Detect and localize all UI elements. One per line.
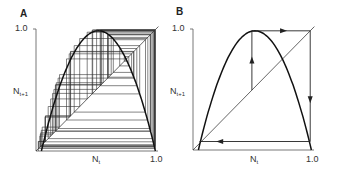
map-curve: [198, 31, 311, 150]
diagonal-line: [36, 27, 158, 151]
panel-label-a: A: [20, 8, 27, 19]
y-axis-label-b: Nt+1: [170, 86, 186, 97]
map-curve: [41, 31, 155, 151]
x-max-label-a: 1.0: [150, 154, 163, 164]
x-axis-label-a: Nt: [92, 154, 101, 165]
y-max-label-b: 1.0: [172, 23, 185, 33]
plot-area-a: [33, 27, 158, 151]
y-max-label-a: 1.0: [15, 23, 28, 33]
x-max-label-b: 1.0: [306, 154, 319, 164]
diagonal-line: [193, 27, 314, 150]
y-axis-label-a: Nt+1: [13, 86, 29, 97]
plot-area-b: [190, 27, 314, 150]
x-axis-label-b: Nt: [250, 154, 259, 165]
panel-a: A 1.0 1.0 Nt+1 Nt: [13, 8, 163, 165]
arrow-left-icon: [216, 139, 223, 144]
panel-b: B 1.0 1.0 Nt+1 Nt: [170, 6, 319, 165]
panel-label-b: B: [176, 6, 183, 17]
figure: A 1.0 1.0 Nt+1 Nt B 1.0 1.0 Nt+1 Nt: [0, 0, 340, 179]
arrow-up-icon: [249, 56, 254, 63]
arrow-right-icon: [280, 28, 287, 33]
arrow-down-icon: [308, 96, 313, 103]
